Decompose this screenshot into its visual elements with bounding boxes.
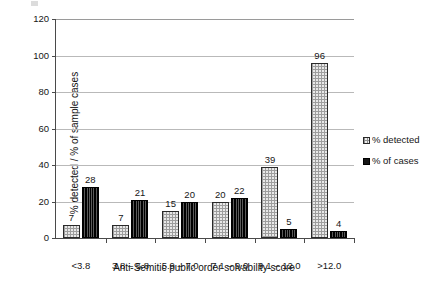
bar-cases <box>280 229 297 238</box>
bar-detected <box>212 202 229 239</box>
bar-group: 721 <box>106 19 156 238</box>
y-tick-label: 20 <box>38 197 49 207</box>
x-tick <box>205 238 206 243</box>
scan-artifact <box>31 1 38 6</box>
y-tick-label: 120 <box>33 14 49 24</box>
bar-value-label: 28 <box>85 175 96 185</box>
x-tick <box>106 238 107 243</box>
x-tick <box>304 238 305 243</box>
x-tick <box>354 238 355 243</box>
bar-group: 395 <box>255 19 305 238</box>
bar-value-label: 20 <box>215 190 226 200</box>
bar-group: 2022 <box>205 19 255 238</box>
bar-group: 1520 <box>155 19 205 238</box>
bar-groups: 72872115202022395964 <box>56 19 354 238</box>
legend-label: % of cases <box>372 156 418 166</box>
bar-cases <box>82 187 99 238</box>
bar-detected <box>311 63 328 238</box>
bar-value-label: 7 <box>118 213 123 223</box>
y-tick-label: 0 <box>44 233 49 243</box>
bar-group: 728 <box>56 19 106 238</box>
bar-value-label: 5 <box>286 217 291 227</box>
bar-detected <box>261 167 278 238</box>
y-tick-label: 60 <box>38 124 49 134</box>
y-tick-label: 100 <box>33 51 49 61</box>
bar-group: 964 <box>304 19 354 238</box>
bar-cases <box>131 200 148 238</box>
bar-value-label: 22 <box>234 186 245 196</box>
bar-value-label: 15 <box>165 199 176 209</box>
bar-chart-figure: % detected / % of sample cases 020406080… <box>0 0 444 285</box>
legend-item: % of cases <box>363 156 420 166</box>
bar-value-label: 96 <box>314 51 325 61</box>
x-tick <box>255 238 256 243</box>
bar-detected <box>162 211 179 238</box>
bar-value-label: 20 <box>184 190 195 200</box>
y-tick-label: 80 <box>38 87 49 97</box>
bar-cases <box>181 202 198 239</box>
plot-area: 020406080100120 72872115202022395964 <3.… <box>55 19 354 239</box>
legend-item: % detected <box>363 135 420 145</box>
y-tick-label: 40 <box>38 160 49 170</box>
bar-value-label: 21 <box>135 188 146 198</box>
bar-cases <box>330 231 347 238</box>
bar-detected <box>63 225 80 238</box>
legend-label: % detected <box>372 135 420 145</box>
bar-cases <box>231 198 248 238</box>
x-tick <box>155 238 156 243</box>
bar-value-label: 7 <box>69 213 74 223</box>
bar-detected <box>112 225 129 238</box>
legend: % detected% of cases <box>363 135 420 177</box>
bar-value-label: 4 <box>336 219 341 229</box>
legend-swatch-icon <box>363 137 370 144</box>
x-axis-title: Anti-Semitic public order solvability sc… <box>55 262 353 273</box>
y-tick <box>52 238 56 239</box>
legend-swatch-icon <box>363 158 370 165</box>
bar-value-label: 39 <box>265 155 276 165</box>
